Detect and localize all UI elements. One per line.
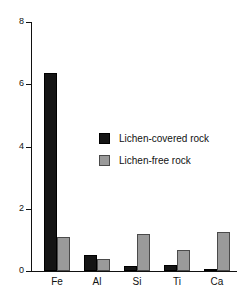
x-axis-label-si: Si bbox=[117, 276, 157, 287]
x-axis-label-ti: Ti bbox=[157, 276, 197, 287]
legend-label: Lichen-covered rock bbox=[119, 133, 209, 144]
bar-si-free bbox=[137, 234, 150, 271]
bar-ti-free bbox=[177, 250, 190, 271]
legend-swatch-icon bbox=[99, 155, 110, 166]
bar-ti-covered bbox=[164, 265, 177, 271]
x-axis-label-ca: Ca bbox=[197, 276, 237, 287]
bar-chart: 02468 FeAlSiTiCa Lichen-covered rock Lic… bbox=[0, 0, 245, 302]
x-axis-label-al: Al bbox=[77, 276, 117, 287]
legend-item-lichen-covered-rock: Lichen-covered rock bbox=[99, 130, 209, 147]
y-axis-tick-label: 4 bbox=[0, 142, 24, 151]
bar-fe-covered bbox=[44, 73, 57, 271]
y-axis-tick-label: 6 bbox=[0, 79, 24, 88]
x-axis-line bbox=[31, 271, 237, 272]
bar-ca-covered bbox=[204, 269, 217, 271]
y-axis-tick bbox=[26, 271, 32, 272]
legend-item-lichen-free-rock: Lichen-free rock bbox=[99, 152, 209, 169]
y-axis-tick-label: 2 bbox=[0, 204, 24, 213]
bar-al-free bbox=[97, 259, 110, 271]
chart-legend: Lichen-covered rock Lichen-free rock bbox=[99, 130, 209, 174]
bar-al-covered bbox=[84, 255, 97, 271]
y-axis-tick-label: 8 bbox=[0, 17, 24, 26]
x-axis-label-fe: Fe bbox=[37, 276, 77, 287]
bar-fe-free bbox=[57, 237, 70, 271]
y-axis-tick-label: 0 bbox=[0, 266, 24, 275]
bar-ca-free bbox=[217, 232, 230, 271]
legend-label: Lichen-free rock bbox=[119, 155, 191, 166]
bar-si-covered bbox=[124, 266, 137, 271]
legend-swatch-icon bbox=[99, 133, 110, 144]
